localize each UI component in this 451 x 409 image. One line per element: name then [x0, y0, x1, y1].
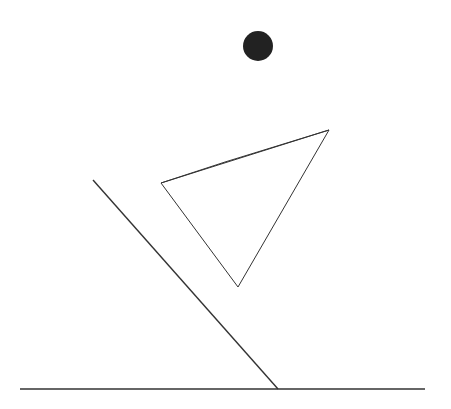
physics-scene: [0, 0, 451, 409]
ball: [243, 31, 273, 61]
scene-svg: [0, 0, 451, 409]
ramp-line: [93, 180, 278, 389]
triangle: [161, 130, 329, 287]
